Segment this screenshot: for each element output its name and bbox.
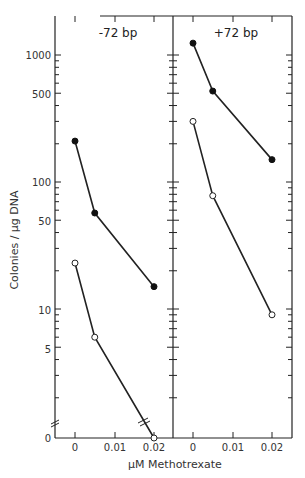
filled-circle-marker <box>92 210 98 216</box>
panel-left-title: -72 bp <box>99 26 138 40</box>
y-tick-50: 50 <box>38 216 51 227</box>
open-circle-marker <box>190 118 196 124</box>
x-tick-right-002: 0.02 <box>261 442 283 453</box>
filled-circle-marker <box>210 88 216 94</box>
methotrexate-chart: 1000 500 100 50 10 5 0 Colonies / μg DNA… <box>0 0 305 478</box>
filled-circle-marker <box>190 40 196 46</box>
x-axis-title: μM Methotrexate <box>128 458 222 471</box>
y-tick-100: 100 <box>32 177 51 188</box>
open-circle-marker <box>151 435 157 441</box>
x-tick-left-001: 0.01 <box>104 442 126 453</box>
open-circle-marker <box>92 334 98 340</box>
y-tick-0: 0 <box>45 433 51 444</box>
x-tick-labels: 0 0.01 0.02 0 0.01 0.02 <box>72 442 283 453</box>
series-line <box>75 141 154 287</box>
filled-circle-marker <box>269 157 275 163</box>
x-tick-right-001: 0.01 <box>222 442 244 453</box>
open-circle-marker <box>72 260 78 266</box>
y-tick-10: 10 <box>38 305 51 316</box>
series-line <box>193 121 272 314</box>
y-axis-title: Colonies / μg DNA <box>8 190 21 290</box>
x-tick-left-002: 0.02 <box>143 442 165 453</box>
y-tick-1000: 1000 <box>26 50 51 61</box>
x-tick-right-0: 0 <box>190 442 196 453</box>
open-circle-marker <box>210 193 216 199</box>
y-tick-labels: 1000 500 100 50 10 5 0 <box>26 50 51 444</box>
series-line <box>75 263 154 438</box>
filled-circle-marker <box>151 284 157 290</box>
x-tick-left-0: 0 <box>72 442 78 453</box>
series-line <box>193 43 272 160</box>
y-tick-500: 500 <box>32 89 51 100</box>
plot-frame <box>55 16 292 438</box>
y-tick-5: 5 <box>45 344 51 355</box>
panel-right-title: +72 bp <box>214 26 258 40</box>
open-circle-marker <box>269 312 275 318</box>
filled-circle-marker <box>72 138 78 144</box>
